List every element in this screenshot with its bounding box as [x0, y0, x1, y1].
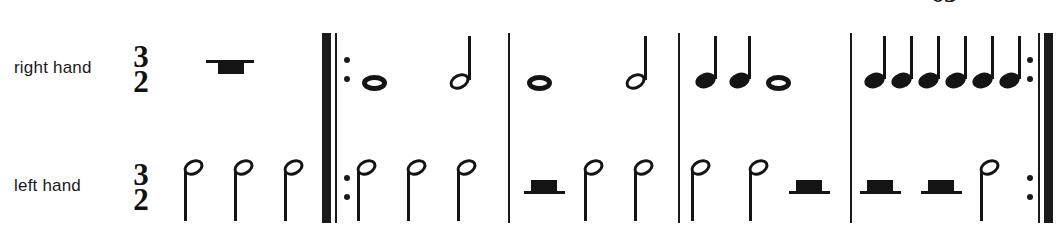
staff-label-left-hand: left hand	[14, 176, 81, 196]
barline-2	[678, 33, 680, 223]
staff-label-right-hand: right hand	[14, 58, 92, 78]
barline-1	[508, 33, 510, 223]
time-signature-denominator: 2	[126, 187, 156, 212]
page-number: 65	[931, 0, 957, 9]
music-notation-sheet: 65 right hand 3 2 left hand 3 2	[0, 0, 1063, 227]
repeat-dot	[344, 76, 350, 82]
repeat-dot	[1027, 57, 1033, 63]
barline-3	[850, 33, 852, 223]
repeat-dot	[344, 194, 350, 200]
repeat-dot	[344, 57, 350, 63]
repeat-dot	[1027, 76, 1033, 82]
time-signature-right-hand: 3 2	[126, 44, 156, 95]
repeat-dot	[1027, 194, 1033, 200]
repeat-dot	[1027, 175, 1033, 181]
time-signature-denominator: 2	[126, 69, 156, 94]
time-signature-left-hand: 3 2	[126, 162, 156, 213]
repeat-dot	[344, 175, 350, 181]
